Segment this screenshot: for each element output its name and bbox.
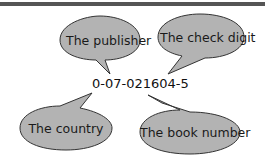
book-number-label: The book number: [140, 125, 240, 140]
publisher-label: The publisher: [66, 33, 136, 48]
isbn-number: 0-07-021604-5: [92, 76, 189, 91]
country-label: The country: [24, 121, 108, 136]
check-digit-label: The check digit: [160, 30, 244, 45]
isbn-diagram: The publisher The check digit The countr…: [0, 0, 265, 168]
